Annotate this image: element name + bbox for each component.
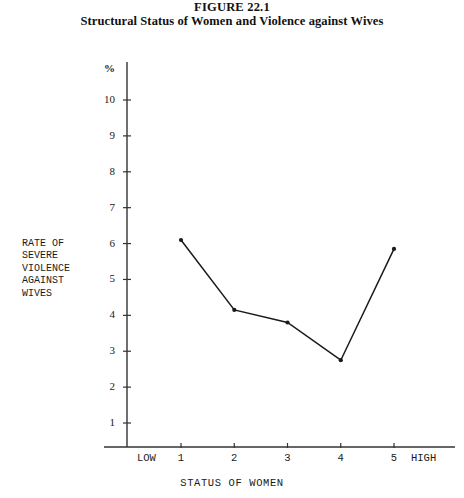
x-tick-label: 5 bbox=[379, 452, 409, 464]
y-tick-label: 4 bbox=[89, 308, 115, 320]
x-tick-label: 4 bbox=[326, 452, 356, 464]
data-line bbox=[181, 240, 394, 360]
data-point bbox=[392, 247, 396, 251]
x-tick-label: 1 bbox=[166, 452, 196, 464]
y-tick-label: 2 bbox=[89, 380, 115, 392]
y-axis-title-line: RATE OF bbox=[22, 238, 102, 250]
y-tick-label: 7 bbox=[89, 201, 115, 213]
x-tick-label: 2 bbox=[219, 452, 249, 464]
data-point bbox=[285, 320, 289, 324]
data-point-markers bbox=[179, 238, 396, 362]
y-axis-title-line: VIOLENCE bbox=[22, 263, 102, 275]
x-axis-low-label: LOW bbox=[137, 452, 156, 464]
y-tick-label: 1 bbox=[89, 416, 115, 428]
y-axis-title-line: WIVES bbox=[22, 288, 102, 300]
x-tick-label: 3 bbox=[273, 452, 303, 464]
data-point bbox=[179, 238, 183, 242]
y-axis-title-line: SEVERE bbox=[22, 250, 102, 262]
y-axis-title-line: AGAINST bbox=[22, 275, 102, 287]
figure-page: FIGURE 22.1 Structural Status of Women a… bbox=[0, 0, 464, 498]
y-tick-label: 8 bbox=[89, 165, 115, 177]
y-axis-title: RATE OFSEVEREVIOLENCEAGAINSTWIVES bbox=[22, 238, 102, 300]
y-axis-unit-label: % bbox=[89, 62, 115, 74]
data-point bbox=[232, 308, 236, 312]
y-tick-label: 3 bbox=[89, 344, 115, 356]
y-tick-label: 9 bbox=[89, 129, 115, 141]
data-point bbox=[339, 358, 343, 362]
x-axis-title: STATUS OF WOMEN bbox=[0, 477, 464, 489]
y-tick-label: 10 bbox=[89, 93, 115, 105]
x-axis-high-label: HIGH bbox=[411, 452, 436, 464]
